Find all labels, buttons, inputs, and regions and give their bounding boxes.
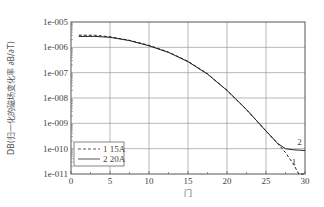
svg-text:5: 5 <box>108 176 113 186</box>
series-line-2 <box>79 36 305 150</box>
x-axis-ticks: 051015202530 <box>69 171 310 186</box>
legend-label-1: 1 15A <box>103 144 126 154</box>
svg-text:15: 15 <box>184 176 194 186</box>
svg-text:10: 10 <box>145 176 155 186</box>
y-axis-label: DB(归一化的磁场变化率 ∂B/∂T) <box>6 41 16 155</box>
x-axis-label: 门 <box>184 188 192 198</box>
svg-text:1e-008: 1e-008 <box>43 93 68 103</box>
y-axis-ticks: 1e-0111e-0101e-0091e-0081e-0071e-0061e-0… <box>43 17 73 179</box>
svg-text:20: 20 <box>223 176 233 186</box>
svg-text:30: 30 <box>301 176 311 186</box>
svg-text:0: 0 <box>69 176 74 186</box>
chart: 1e-0111e-0101e-0091e-0081e-0071e-0061e-0… <box>0 0 324 207</box>
svg-text:1e-006: 1e-006 <box>43 42 68 52</box>
legend: 1 15A 2 20A <box>74 142 126 166</box>
svg-text:1e-007: 1e-007 <box>43 68 68 78</box>
svg-text:1e-009: 1e-009 <box>43 118 68 128</box>
svg-text:1e-011: 1e-011 <box>43 169 68 179</box>
svg-text:1e-005: 1e-005 <box>43 17 68 27</box>
svg-text:25: 25 <box>262 176 272 186</box>
svg-text:1e-010: 1e-010 <box>43 144 68 154</box>
legend-label-2: 2 20A <box>103 154 126 164</box>
curve-2-label: 2 <box>297 137 302 147</box>
curve-1-label: 1 <box>292 157 297 167</box>
